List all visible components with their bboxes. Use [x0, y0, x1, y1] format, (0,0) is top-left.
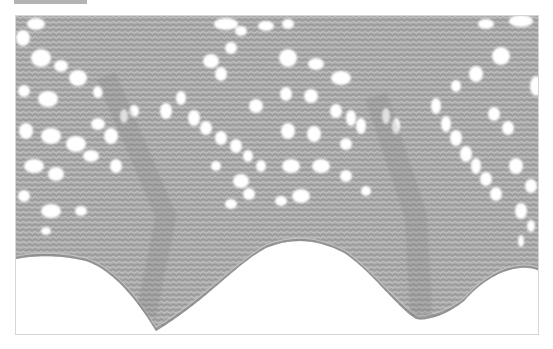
- top-caption: [105, 0, 137, 2]
- top-label-tab: [14, 0, 87, 4]
- lace-photo: [15, 15, 539, 335]
- lace-knitting-image: [16, 16, 539, 335]
- fabric: [16, 16, 539, 335]
